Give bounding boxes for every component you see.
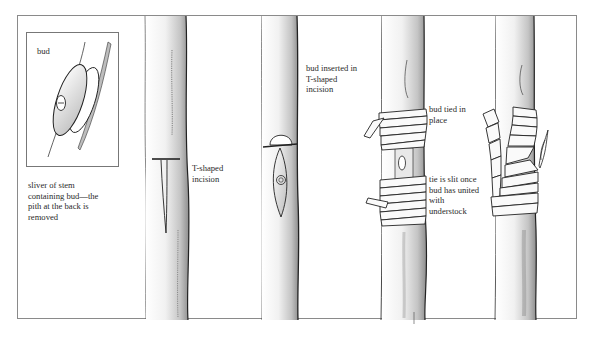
caption-bud-tied: bud tied in place bbox=[429, 104, 466, 125]
caption-tie-slit: tie is slit once bud has united with und… bbox=[429, 174, 479, 216]
stem-bud-inserted bbox=[262, 16, 299, 320]
stem-tie-slit bbox=[483, 16, 548, 320]
caption-bud-sliver: sliver of stem containing bud—the pith a… bbox=[28, 180, 98, 222]
caption-t-incision: T-shaped incision bbox=[192, 163, 223, 184]
caption-bud-inserted: bud inserted in T-shaped incision bbox=[306, 63, 357, 95]
label-bud: bud bbox=[37, 46, 50, 57]
stem-t-incision bbox=[146, 16, 189, 320]
stem-bud-tied bbox=[364, 16, 427, 324]
